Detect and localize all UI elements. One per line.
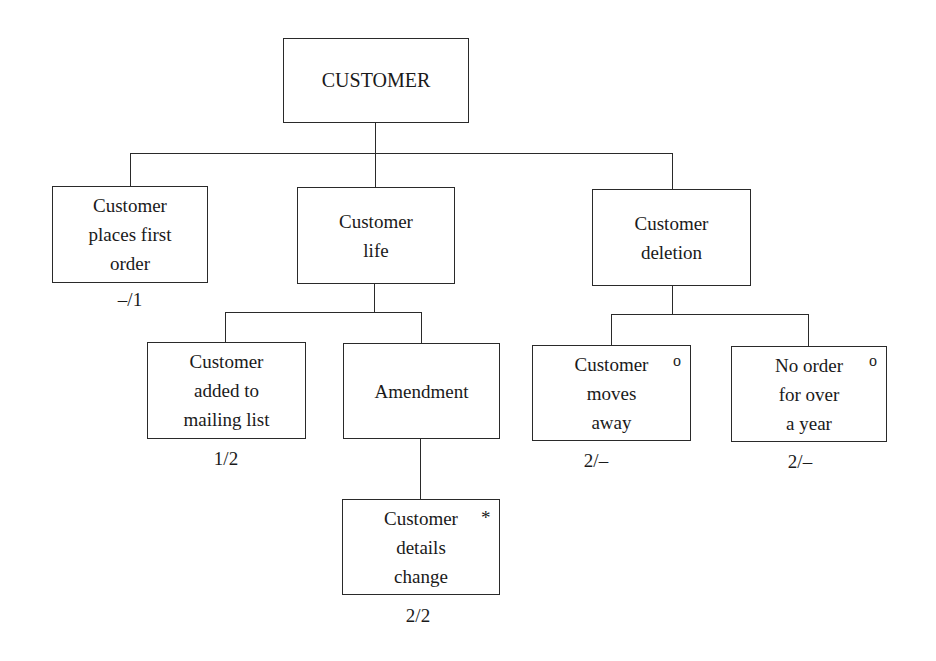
connector-root-down: [375, 123, 376, 153]
root-label: CUSTOMER: [322, 66, 431, 95]
node-label: Amendment: [375, 377, 469, 406]
node-label: No order for over a year: [775, 351, 843, 438]
annotation-no-order: 2/–: [750, 451, 850, 473]
connector-to-first-order: [130, 153, 131, 186]
connector-level1: [130, 153, 673, 154]
connector-to-life: [375, 153, 376, 187]
node-moves-away: Customer moves away: [532, 345, 691, 441]
connector-deletion-down: [672, 286, 673, 314]
connector-deletion-children: [611, 314, 808, 315]
iteration-marker-icon: *: [481, 510, 491, 526]
node-label: Customer moves away: [575, 350, 649, 437]
root-box-customer: CUSTOMER: [283, 38, 469, 123]
connector-to-no-order: [808, 314, 809, 346]
node-label: Customer deletion: [635, 209, 709, 267]
connector-to-amendment: [421, 312, 422, 343]
node-first-order: Customer places first order: [52, 186, 208, 283]
node-life: Customer life: [297, 187, 455, 284]
node-mailing-list: Customer added to mailing list: [147, 342, 306, 439]
node-label: Customer added to mailing list: [183, 347, 269, 434]
optional-marker-icon: o: [869, 353, 877, 369]
optional-marker-icon: o: [673, 353, 681, 369]
node-label: Customer places first order: [89, 191, 172, 278]
node-amendment: Amendment: [343, 343, 500, 439]
annotation-moves-away: 2/–: [546, 450, 646, 472]
connector-to-moves-away: [611, 314, 612, 345]
connector-to-deletion: [672, 153, 673, 189]
connector-life-children: [225, 312, 422, 313]
connector-to-mailing-list: [225, 312, 226, 342]
node-details-change: Customer details change: [342, 499, 500, 595]
annotation-first-order: –/1: [80, 289, 180, 311]
node-label: Customer life: [339, 207, 413, 265]
node-deletion: Customer deletion: [592, 189, 751, 286]
annotation-mailing-list: 1/2: [176, 448, 276, 470]
annotation-details-change: 2/2: [368, 605, 468, 627]
node-label: Customer details change: [384, 504, 458, 591]
connector-amendment-down: [420, 439, 421, 499]
connector-life-down: [374, 284, 375, 312]
node-no-order: No order for over a year: [731, 346, 887, 442]
